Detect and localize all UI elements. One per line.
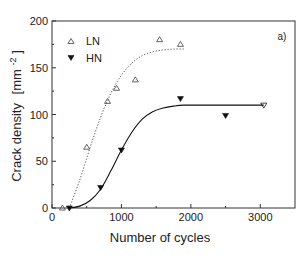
x-tick-label: 2000 (179, 211, 203, 223)
y-tick-label: 100 (30, 109, 48, 121)
fit-line-hn (69, 105, 263, 208)
legend-label-hn: HN (86, 52, 102, 64)
fit-lines (69, 49, 263, 208)
legend-item-ln: LN (68, 35, 100, 47)
minor-ticks (52, 44, 226, 208)
x-axis-label: Number of cycles (110, 230, 211, 245)
x-tick-label: 3000 (248, 211, 272, 223)
data-point-hn (118, 148, 124, 153)
data-point-hn (177, 97, 183, 102)
y-axis-label: Crack density [mm -2 ] (4, 50, 24, 182)
major-ticks (52, 21, 260, 208)
data-point-ln (177, 41, 183, 46)
data-point-ln (84, 144, 90, 149)
data-point-hn (223, 113, 229, 118)
crack-density-chart: 0100020003000 050100150200 Number of cyc… (0, 0, 308, 273)
y-axis-unit-exponent: -2 (8, 57, 18, 65)
open-triangle-up-icon (68, 39, 74, 44)
y-axis-unit-close: ] (9, 50, 24, 54)
legend-label-ln: LN (86, 35, 100, 47)
y-tick-label: 0 (42, 202, 48, 214)
y-tick-label: 50 (36, 155, 48, 167)
data-point-ln (132, 77, 138, 82)
y-axis-unit: [mm (9, 69, 24, 94)
y-tick-labels: 050100150200 (30, 15, 48, 214)
y-axis-label-text: Crack density (9, 103, 24, 182)
x-tick-labels: 0100020003000 (49, 211, 273, 223)
data-point-hn (98, 185, 104, 190)
y-tick-label: 200 (30, 15, 48, 27)
y-tick-label: 150 (30, 62, 48, 74)
x-tick-label: 0 (49, 211, 55, 223)
fit-line-ln (69, 49, 184, 208)
legend-item-hn: HN (68, 52, 102, 64)
data-point-ln (105, 98, 111, 103)
legend: LN HN (68, 35, 102, 64)
panel-label: a) (278, 31, 287, 42)
x-tick-label: 1000 (109, 211, 133, 223)
filled-triangle-down-icon (68, 56, 74, 61)
data-point-ln (157, 37, 163, 42)
